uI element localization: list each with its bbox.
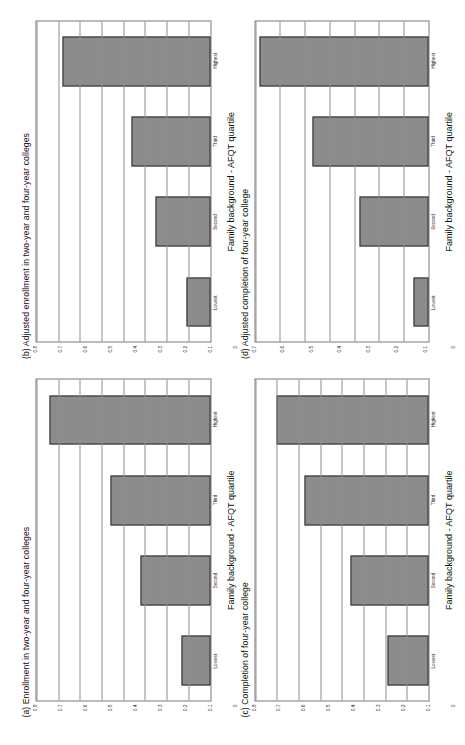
panel-a-xaxis-label: Family background - AFQT quartile: [225, 379, 235, 702]
panel-b-gridline: [58, 21, 59, 342]
panel-d: (d) Adjusted completion of four-year col…: [237, 14, 456, 373]
panel-c-gridline: [363, 380, 364, 701]
panel-c-ytick: 0.7: [276, 704, 281, 710]
panel-d-ytick: 0.5: [308, 346, 313, 352]
panel-b-gridline: [79, 21, 80, 342]
panel-a-gridline: [123, 380, 124, 701]
panel-c-plot-area: [254, 379, 430, 702]
panel-a-bar-third: [110, 475, 210, 525]
panel-a-gridline: [188, 380, 189, 701]
panel-c-ytick: 0.6: [301, 704, 306, 710]
panel-b-title: (b) Adjusted enrollment in two-year and …: [20, 20, 30, 359]
panel-c-ytick-axis: 00.10.20.30.40.50.60.70.8: [254, 701, 454, 727]
panel-b-xtick-label: Third: [212, 136, 217, 146]
figure-rotator: (a) Enrollment in two-year and four-year…: [0, 0, 465, 745]
panel-c-ytick: 0: [451, 704, 456, 707]
four-panel-figure: (a) Enrollment in two-year and four-year…: [0, 0, 465, 745]
panel-b: (b) Adjusted enrollment in two-year and …: [18, 14, 237, 373]
panel-d-gridline: [255, 21, 256, 342]
panel-d-bar-lowest: [413, 277, 428, 327]
panel-c-ytick: 0.8: [251, 704, 256, 710]
panel-c-bar-third: [304, 475, 428, 525]
panel-c-xtick-row: LowestSecondThirdHighest: [429, 379, 442, 702]
panel-a-gridline: [58, 380, 59, 701]
panel-a-gridline: [79, 380, 80, 701]
panel-a-xtick-label: Third: [212, 494, 217, 504]
panel-a-gridline: [166, 380, 167, 701]
panel-d-plot-col: LowestSecondThirdHighest Family backgrou…: [254, 20, 454, 343]
panel-c-gridline: [341, 380, 342, 701]
panel-a-gridline: [144, 380, 145, 701]
panel-b-ytick: 0.6: [82, 346, 87, 352]
panel-d-ytick: 0.7: [251, 346, 256, 352]
panel-a-gridline: [101, 380, 102, 701]
panel-a-ytick: 0.2: [182, 704, 187, 710]
panel-b-ytick: 0.8: [33, 346, 38, 352]
panel-a-plot-col: LowestSecondThirdHighest Family backgrou…: [35, 379, 235, 702]
panel-b-gridline: [36, 21, 37, 342]
panel-d-gridline: [354, 21, 355, 342]
panel-c-xtick-label: Lowest: [430, 653, 435, 668]
panel-a-ytick: 0.4: [132, 704, 137, 710]
panel-d-ytick: 0.1: [422, 346, 427, 352]
panel-b-ytick: 0.1: [207, 346, 212, 352]
panel-d-ytick-axis: 00.10.20.30.40.50.60.7: [254, 343, 454, 369]
panel-d-xtick-label: Third: [430, 136, 435, 146]
panel-a-xtick-label: Highest: [212, 411, 217, 427]
panel-c-plot-col: LowestSecondThirdHighest Family backgrou…: [254, 379, 454, 702]
panel-c-gridline: [406, 380, 407, 701]
panel-d-xtick-label: Highest: [430, 53, 435, 69]
panel-b-xtick-label: Second: [212, 214, 217, 230]
panel-a-ytick: 0.7: [57, 704, 62, 710]
panel-b-plot-col: LowestSecondThirdHighest Family backgrou…: [35, 20, 235, 343]
panel-b-xtick-label: Lowest: [212, 295, 217, 310]
panel-d-gridline: [378, 21, 379, 342]
panel-d-gridline: [304, 21, 305, 342]
panel-b-gridline: [188, 21, 189, 342]
panel-c-ytick: 0.5: [326, 704, 331, 710]
panel-c-ytick: 0.4: [351, 704, 356, 710]
panel-b-gridline: [144, 21, 145, 342]
panel-a-xtick-row: LowestSecondThirdHighest: [211, 379, 224, 702]
panel-a-gridline: [36, 380, 37, 701]
panel-a-ytick-axis: 00.10.20.30.40.50.60.70.8: [35, 701, 235, 727]
panel-c-ytick: 0.3: [376, 704, 381, 710]
panel-d-xtick-label: Lowest: [430, 295, 435, 310]
panel-c-bar-second: [350, 555, 428, 605]
panel-d-gridline: [403, 21, 404, 342]
panel-d-ytick: 0.4: [337, 346, 342, 352]
panel-c-gridline: [385, 380, 386, 701]
panel-d-bar-second: [359, 196, 428, 246]
panel-d-gridline: [279, 21, 280, 342]
panel-b-bar-third: [131, 116, 209, 166]
panel-a-bar-highest: [49, 395, 209, 445]
panel-b-ytick: 0.7: [57, 346, 62, 352]
panel-b-ytick: 0.3: [157, 346, 162, 352]
panel-a-plot-area: [35, 379, 211, 702]
panel-c-gridline: [298, 380, 299, 701]
panel-c-xtick-label: Highest: [430, 411, 435, 427]
panel-b-xtick-row: LowestSecondThirdHighest: [211, 20, 224, 343]
panel-b-ytick: 0.4: [132, 346, 137, 352]
panel-a-ytick: 0.6: [82, 704, 87, 710]
panel-b-xtick-label: Highest: [212, 53, 217, 69]
panel-c-xaxis-label: Family background - AFQT quartile: [443, 379, 453, 702]
panel-d-plot-wrap: 00.10.20.30.40.50.60.7 LowestSecondThird…: [254, 20, 454, 369]
panel-c-gridline: [276, 380, 277, 701]
panel-d-ytick: 0.2: [394, 346, 399, 352]
panel-d-gridline: [329, 21, 330, 342]
panel-b-gridline: [166, 21, 167, 342]
panel-c-ytick: 0.1: [426, 704, 431, 710]
panel-c: (c) Completion of four-year college 00.1…: [237, 373, 456, 732]
panel-d-xaxis-label: Family background - AFQT quartile: [443, 20, 453, 343]
panel-d-ytick: 0: [451, 346, 456, 349]
panel-a-ytick: 0.8: [33, 704, 38, 710]
panel-a-xtick-label: Lowest: [212, 653, 217, 668]
panel-d-xtick-label: Second: [430, 214, 435, 230]
panel-a-title: (a) Enrollment in two-year and four-year…: [20, 379, 30, 718]
panel-c-ytick: 0.2: [401, 704, 406, 710]
panel-a-ytick: 0.1: [207, 704, 212, 710]
panel-a-ytick: 0.5: [107, 704, 112, 710]
panel-b-plot-area: [35, 20, 211, 343]
panel-d-plot-area: [254, 20, 430, 343]
